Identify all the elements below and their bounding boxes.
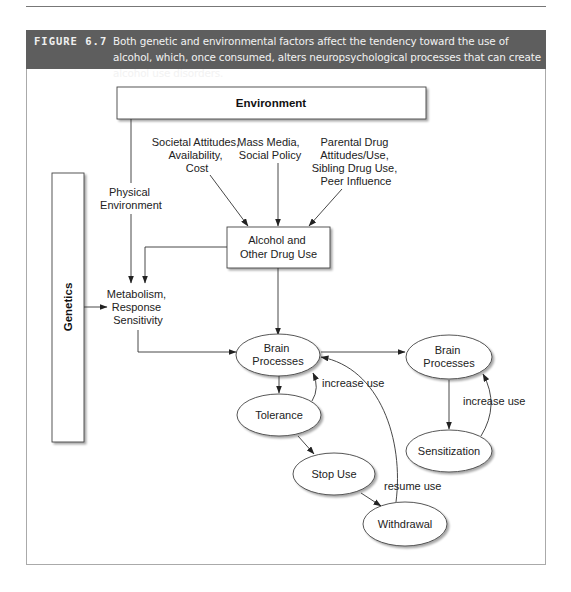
societal-attitudes-label: Societal Attitudes, Availability, Cost — [152, 136, 243, 174]
sensitization-node: Sensitization — [406, 430, 492, 472]
mass-media-label: Mass Media, Social Policy — [237, 136, 302, 161]
environment-label: Environment — [236, 97, 306, 109]
environment-box: Environment — [117, 87, 426, 119]
tolerance-to-stop-use-arrow — [298, 436, 314, 454]
svg-text:Tolerance: Tolerance — [255, 409, 303, 421]
tolerance-node: Tolerance — [237, 394, 321, 436]
resume-use-label: resume use — [384, 480, 441, 492]
diagram-canvas: Environment Genetics Physical Environmen… — [0, 0, 571, 592]
brain-processes-node-2: Brain Processes — [406, 335, 492, 379]
svg-text:Withdrawal: Withdrawal — [378, 518, 432, 530]
stop-use-to-withdrawal-arrow — [361, 493, 381, 506]
physical-environment-label: Physical Environment — [100, 186, 162, 211]
svg-text:Stop Use: Stop Use — [311, 468, 356, 480]
societal-to-alcohol-arrow — [210, 175, 248, 226]
stop-use-node: Stop Use — [293, 453, 375, 495]
parental-drug-label: Parental Drug Attitudes/Use, Sibling Dru… — [312, 136, 401, 187]
tolerance-increase-use-arrow — [312, 373, 316, 401]
alcohol-drug-use-box: Alcohol and Other Drug Use — [227, 227, 330, 268]
genetics-box: Genetics — [52, 173, 84, 442]
svg-text:Sensitization: Sensitization — [418, 445, 480, 457]
parental-to-alcohol-arrow — [309, 189, 342, 226]
increase-use-label-2: increase use — [463, 395, 525, 407]
brain-processes-node-1: Brain Processes — [236, 334, 320, 376]
alcohol-to-metabolism-arrow — [145, 247, 227, 283]
genetics-label: Genetics — [62, 283, 74, 332]
withdrawal-node: Withdrawal — [363, 502, 447, 546]
metabolism-label: Metabolism, Response Sensitivity — [107, 288, 169, 326]
increase-use-label-1: increase use — [322, 377, 384, 389]
metabolism-to-brain-arrow — [138, 330, 236, 352]
